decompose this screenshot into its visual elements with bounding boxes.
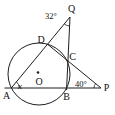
angle-arc-at-q — [64, 24, 69, 26]
angle-label-32deg: 32° — [45, 11, 57, 21]
geometry-diagram: A B C D O P Q 32° 40° x — [0, 0, 115, 115]
circle-outline — [8, 43, 70, 105]
angle-arc-at-p — [94, 84, 96, 88]
point-label-o: O — [35, 76, 42, 87]
geometry-figure: A B C D O P Q 32° 40° x — [0, 0, 115, 115]
point-label-p: P — [104, 82, 110, 93]
point-label-b: B — [63, 91, 70, 102]
center-point-dot — [37, 71, 40, 74]
angle-label-40deg: 40° — [75, 79, 87, 89]
point-label-d: D — [37, 34, 44, 45]
point-label-c: C — [69, 51, 76, 62]
point-label-q: Q — [68, 3, 76, 14]
angle-label-x: x — [17, 81, 22, 91]
point-label-a: A — [3, 90, 11, 101]
